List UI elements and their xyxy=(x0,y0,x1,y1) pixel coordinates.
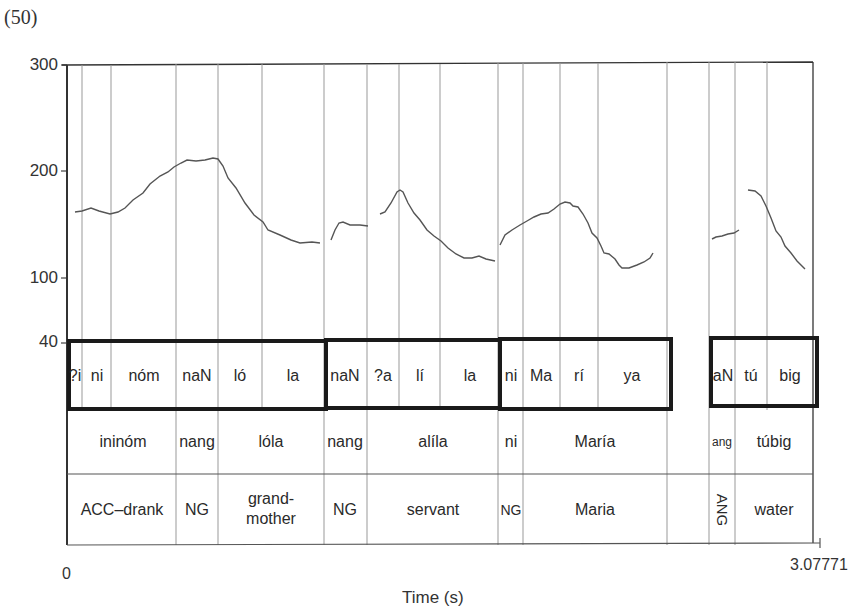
syllable: Ma xyxy=(530,367,552,384)
gloss-rotated: ANG xyxy=(714,494,731,527)
gloss: water xyxy=(753,501,794,518)
gloss: NG xyxy=(185,501,209,518)
word: María xyxy=(575,433,616,450)
word: túbig xyxy=(757,433,792,450)
pitch-contour-3 xyxy=(380,190,495,261)
syllable: naN xyxy=(330,367,359,384)
syllable: big xyxy=(779,367,800,384)
phrase-boxes xyxy=(69,338,817,409)
pitch-track-figure: ?i ni nóm naN ló la naN ?a lí la ni Ma r… xyxy=(0,0,867,616)
syllable: nóm xyxy=(128,367,159,384)
gloss-line1: grand- xyxy=(248,490,294,507)
word-tier: ininóm nang lóla nang alíla ni María ang… xyxy=(99,433,791,450)
gloss: servant xyxy=(407,501,460,518)
syllable: ya xyxy=(624,367,641,384)
gloss: Maria xyxy=(575,501,615,518)
syllable-tier: ?i ni nóm naN ló la naN ?a lí la ni Ma r… xyxy=(69,367,801,384)
syllable: ?a xyxy=(374,367,392,384)
word: lóla xyxy=(259,433,284,450)
gloss-tier: ACC–drank NG grand- mother NG servant NG… xyxy=(81,490,795,527)
word: ni xyxy=(505,433,517,450)
word: ininóm xyxy=(99,433,146,450)
syllable: tú xyxy=(744,367,757,384)
pitch-contour-1 xyxy=(75,158,320,243)
syllable: ló xyxy=(234,367,247,384)
syllable: aN xyxy=(713,367,733,384)
gloss: NG xyxy=(501,502,522,518)
syllable: ni xyxy=(91,367,103,384)
phrase-box-3 xyxy=(500,339,671,409)
gloss: NG xyxy=(333,501,357,518)
plot-frame xyxy=(62,62,813,545)
pitch-contour-6 xyxy=(748,190,805,269)
syllable: la xyxy=(464,367,477,384)
syllable: lí xyxy=(416,367,425,384)
pitch-contour-2 xyxy=(331,222,368,240)
gloss-line2: mother xyxy=(246,510,296,527)
syllable: rí xyxy=(574,367,584,384)
word: nang xyxy=(179,433,215,450)
gloss: ACC–drank xyxy=(81,501,165,518)
word: nang xyxy=(327,433,363,450)
word: ang xyxy=(712,435,732,449)
syllable: ni xyxy=(505,367,517,384)
syllable: la xyxy=(287,367,300,384)
word: alíla xyxy=(418,433,447,450)
syllable: naN xyxy=(182,367,211,384)
syllable-gridlines xyxy=(82,62,767,545)
syllable: ?i xyxy=(69,367,81,384)
